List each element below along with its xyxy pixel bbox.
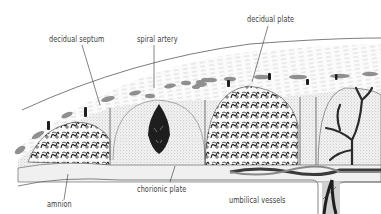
umbilical-cord bbox=[322, 180, 340, 214]
label-umbilical-vessels: umbilical vessels bbox=[229, 195, 286, 205]
label-spiral-artery: spiral artery bbox=[137, 34, 178, 44]
label-decidual-plate: decidual plate bbox=[247, 14, 294, 24]
label-amnion: amnion bbox=[47, 199, 72, 209]
label-decidual-septum: decidual septum bbox=[49, 34, 104, 44]
label-chorionic-plate: chorionic plate bbox=[137, 184, 186, 194]
placenta-diagram bbox=[0, 0, 381, 214]
cotyledon-left bbox=[28, 122, 110, 165]
